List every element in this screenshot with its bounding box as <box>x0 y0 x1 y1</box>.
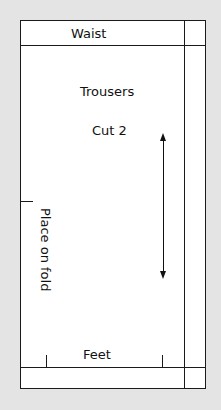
cut-instruction-label: Cut 2 <box>92 123 127 138</box>
side-seam-line <box>184 20 185 389</box>
pattern-piece-outline <box>20 20 206 389</box>
hem-seam-line <box>20 367 206 368</box>
fold-label: Place on fold <box>38 208 53 291</box>
feet-tick-left <box>46 355 47 367</box>
waist-seam-line <box>20 45 206 46</box>
waist-label: Waist <box>71 26 106 41</box>
fold-marker-tick <box>20 201 33 202</box>
piece-name-label: Trousers <box>80 84 134 99</box>
feet-tick-right <box>162 355 163 367</box>
feet-label: Feet <box>83 347 111 362</box>
